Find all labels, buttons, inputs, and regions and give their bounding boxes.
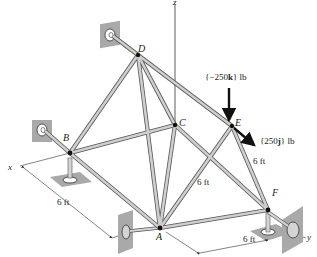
load-label-250j: {250j} lb xyxy=(260,137,294,146)
joint-A xyxy=(158,226,163,231)
joint-E xyxy=(230,124,234,128)
axis-label-z: z xyxy=(173,0,177,7)
node-label-D: D xyxy=(138,44,145,54)
dimension-label-x: 6 ft xyxy=(57,198,69,207)
dimension-label-y: 6 ft xyxy=(243,235,255,244)
node-label-F: F xyxy=(272,188,278,198)
axis-label-x: x xyxy=(8,163,12,172)
truss-drawing xyxy=(0,0,317,257)
joint-F xyxy=(266,208,271,213)
joint-B xyxy=(68,151,73,156)
support-B-wall xyxy=(32,120,52,142)
dimension-label-member-EF: 6 ft xyxy=(253,157,265,166)
node-label-A: A xyxy=(156,232,162,242)
support-D xyxy=(100,21,120,49)
dimension-label-member-CA: 6 ft xyxy=(197,178,209,187)
load-label-minus-250k: {−250k} lb xyxy=(205,73,247,82)
joint-C xyxy=(173,123,177,127)
space-truss-diagram: D B C E A F z x y {−250k} lb {250j} lb 6… xyxy=(0,0,317,257)
support-B-floor xyxy=(50,158,92,187)
support-A-wall xyxy=(118,210,158,254)
node-label-E: E xyxy=(235,118,241,128)
node-label-B: B xyxy=(63,133,69,143)
truss-members xyxy=(45,36,268,228)
x-axis xyxy=(20,153,70,166)
node-label-C: C xyxy=(179,118,186,128)
axis-label-y: y xyxy=(307,233,311,242)
